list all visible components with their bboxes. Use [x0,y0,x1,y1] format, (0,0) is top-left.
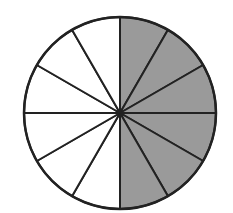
fraction-circle [0,0,233,213]
